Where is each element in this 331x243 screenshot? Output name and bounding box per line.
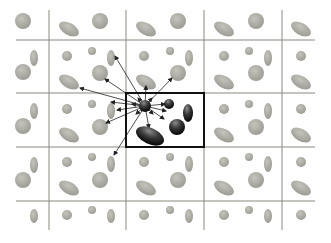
gray-particle	[139, 157, 149, 167]
gray-particle	[88, 100, 96, 108]
gray-particle	[88, 206, 96, 214]
gray-particle	[62, 210, 72, 220]
gray-particle	[264, 209, 272, 223]
gray-particle	[211, 124, 236, 145]
gray-particle	[92, 119, 108, 135]
gray-particle	[15, 13, 31, 29]
gray-particle	[15, 172, 31, 188]
gray-particle	[245, 47, 253, 55]
diagram-canvas	[0, 0, 331, 243]
source-particle	[139, 100, 151, 112]
gray-particle	[166, 47, 174, 55]
gray-particle	[62, 104, 72, 114]
gray-particle	[133, 18, 158, 39]
gray-particle	[107, 50, 115, 66]
gray-particle	[92, 13, 108, 29]
dark-particle	[164, 99, 174, 109]
gray-particle	[56, 124, 81, 145]
gray-particle	[62, 157, 72, 167]
gray-particle	[88, 153, 96, 161]
dark-particle	[183, 104, 193, 122]
gray-particle	[62, 51, 72, 61]
gray-particle	[107, 209, 115, 223]
gray-particle	[30, 157, 38, 173]
gray-particle	[264, 156, 272, 172]
gray-particle	[107, 156, 115, 172]
gray-particle	[245, 153, 253, 161]
gray-particle	[219, 210, 229, 220]
gray-particle	[30, 103, 38, 119]
gray-particle	[296, 104, 306, 114]
gray-particle	[30, 50, 38, 66]
gray-particle	[185, 209, 193, 223]
gray-particle	[15, 118, 31, 134]
gray-particle	[30, 209, 38, 223]
gray-particle	[170, 172, 186, 188]
grid-lines	[16, 10, 315, 230]
gray-particle	[211, 177, 236, 198]
gray-particle	[88, 47, 96, 55]
gray-particle	[139, 210, 149, 220]
gray-particle	[288, 18, 313, 39]
gray-particle	[248, 172, 264, 188]
gray-particle	[245, 206, 253, 214]
gray-particle	[245, 100, 253, 108]
particle-grid-diagram	[0, 0, 331, 243]
gray-particle	[170, 65, 186, 81]
gray-particle	[139, 51, 149, 61]
gray-particle	[15, 64, 31, 80]
gray-particle	[296, 157, 306, 167]
gray-particle	[107, 103, 115, 119]
gray-particle	[56, 177, 81, 198]
gray-particle	[248, 119, 264, 135]
gray-particle	[288, 124, 313, 145]
gray-particle	[56, 71, 81, 92]
gray-particle	[219, 51, 229, 61]
gray-particle	[166, 153, 174, 161]
gray-particles	[15, 13, 314, 223]
gray-particle	[92, 172, 108, 188]
dark-particle	[133, 122, 167, 149]
gray-particle	[211, 71, 236, 92]
gray-particle	[219, 104, 229, 114]
source-particle-dot	[139, 100, 151, 112]
gray-particle	[296, 51, 306, 61]
gray-particle	[288, 71, 313, 92]
gray-particle	[219, 157, 229, 167]
gray-particle	[248, 13, 264, 29]
gray-particle	[296, 210, 306, 220]
gray-particle	[92, 65, 108, 81]
gray-particle	[264, 103, 272, 119]
gray-particle	[166, 206, 174, 214]
gray-particle	[248, 65, 264, 81]
gray-particle	[264, 50, 272, 66]
gray-particle	[56, 18, 81, 39]
gray-particle	[185, 50, 193, 66]
gray-particle	[185, 156, 193, 172]
gray-particle	[170, 13, 186, 29]
dark-particle	[169, 119, 185, 135]
gray-particle	[288, 177, 313, 198]
gray-particle	[133, 177, 158, 198]
gray-particle	[211, 18, 236, 39]
